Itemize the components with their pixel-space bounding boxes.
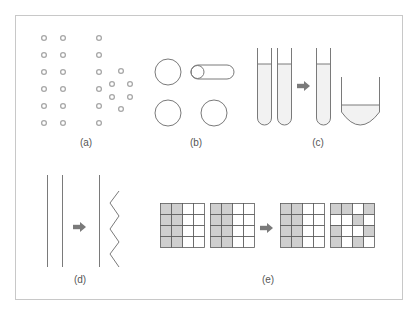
grid-cell [331, 237, 342, 248]
grid-cell [233, 204, 244, 215]
grid-cell [161, 204, 172, 215]
grid-cell [303, 215, 314, 226]
grid-cell [244, 226, 255, 237]
figure-canvas [0, 0, 415, 313]
grid-cell [353, 237, 364, 248]
grid-cell [183, 204, 194, 215]
panel-d-lines [48, 175, 120, 267]
arrow-icon [73, 222, 86, 232]
grid-cell [353, 204, 364, 215]
panel-label-c: (c) [312, 137, 324, 148]
grid-cell [211, 215, 222, 226]
panel-label-a: (a) [80, 137, 92, 148]
grid-cell [194, 226, 205, 237]
grid-cell [342, 204, 353, 215]
grid-cell [292, 226, 303, 237]
grid-cell [161, 215, 172, 226]
panel-label-e: (e) [262, 274, 274, 285]
grid-cell [244, 237, 255, 248]
grid-cell [222, 237, 233, 248]
grid-cell [342, 215, 353, 226]
grid-cell [303, 226, 314, 237]
grid-cell [233, 215, 244, 226]
grid-cell [342, 237, 353, 248]
grid-1 [161, 204, 205, 248]
grid-cell [244, 204, 255, 215]
grid-cell [172, 204, 183, 215]
grid-cell [314, 204, 325, 215]
grid-cell [364, 204, 375, 215]
panel-c-tubes [258, 48, 380, 125]
grid-cell [314, 237, 325, 248]
arrow-icon [297, 81, 310, 91]
grid-cell [211, 226, 222, 237]
grid-cell [172, 215, 183, 226]
grid-cell [292, 204, 303, 215]
grid-cell [314, 226, 325, 237]
grid-cell [292, 237, 303, 248]
panel-b-shapes [155, 59, 234, 126]
grid-cell [233, 226, 244, 237]
grid-cell [331, 215, 342, 226]
grid-cell [183, 226, 194, 237]
grid-cell [281, 237, 292, 248]
grid-cell [222, 204, 233, 215]
grid-cell [292, 215, 303, 226]
grid-cell [211, 204, 222, 215]
panel-label-b: (b) [190, 137, 202, 148]
grid-cell [211, 237, 222, 248]
grid-cell [233, 237, 244, 248]
grid-cell [364, 237, 375, 248]
grid-cell [353, 226, 364, 237]
panel-a-dots [42, 36, 133, 126]
grid-cell [353, 215, 364, 226]
grid-cell [172, 226, 183, 237]
grid-cell [161, 226, 172, 237]
grid-cell [194, 204, 205, 215]
panel-label-d: (d) [74, 274, 86, 285]
grid-cell [331, 226, 342, 237]
grid-cell [244, 215, 255, 226]
grid-4 [331, 204, 375, 248]
grid-2 [211, 204, 255, 248]
grid-cell [194, 215, 205, 226]
grid-cell [331, 204, 342, 215]
grid-cell [281, 215, 292, 226]
grid-cell [303, 237, 314, 248]
grid-3 [281, 204, 325, 248]
grid-cell [183, 237, 194, 248]
grid-cell [161, 237, 172, 248]
grid-cell [222, 226, 233, 237]
arrow-icon [260, 223, 273, 233]
grid-cell [303, 204, 314, 215]
grid-cell [172, 237, 183, 248]
grid-cell [222, 215, 233, 226]
grid-cell [364, 215, 375, 226]
grid-cell [183, 215, 194, 226]
grid-cell [281, 226, 292, 237]
grid-cell [314, 215, 325, 226]
grid-cell [364, 226, 375, 237]
grid-cell [194, 237, 205, 248]
grid-cell [342, 226, 353, 237]
grid-cell [281, 204, 292, 215]
